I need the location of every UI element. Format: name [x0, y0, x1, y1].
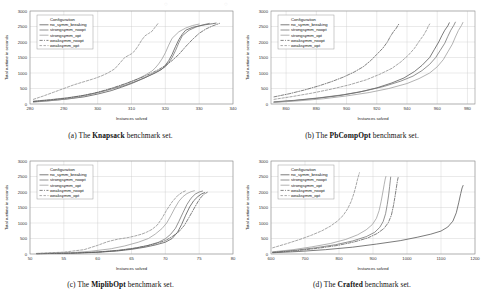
caption-d-prefix: (d) The: [313, 280, 337, 289]
panel-a: 0500100015002000250030002802903003103203…: [0, 0, 241, 150]
svg-text:310: 310: [128, 106, 136, 111]
y-axis-label: Total runtime in seconds: [4, 185, 9, 230]
svg-text:880: 880: [313, 106, 321, 111]
svg-text:320: 320: [162, 106, 170, 111]
legend-title: Configuration: [291, 167, 317, 172]
svg-text:920: 920: [373, 106, 381, 111]
caption-b: (b) The PbCompOpt benchmark set.: [241, 131, 483, 140]
panel-b: 0500100015002000250030008608809009209409…: [241, 0, 483, 150]
caption-d: (d) The Crafted benchmark set.: [241, 280, 483, 289]
svg-text:0: 0: [266, 102, 269, 107]
svg-text:1500: 1500: [259, 205, 269, 210]
legend-item-label: weaksymm_opt: [50, 43, 80, 48]
plot-d: 0500100015002000250030006007008009001000…: [241, 156, 483, 272]
svg-text:500: 500: [20, 236, 28, 241]
svg-text:2000: 2000: [18, 190, 28, 195]
svg-text:50: 50: [28, 256, 33, 261]
svg-text:65: 65: [129, 256, 134, 261]
y-axis-label: Total runtime in seconds: [245, 185, 250, 230]
svg-text:700: 700: [302, 256, 310, 261]
svg-text:1100: 1100: [436, 256, 446, 261]
panel-c: 05001000150020002500300050556065707580In…: [0, 150, 241, 301]
plot-c: 05001000150020002500300050556065707580In…: [0, 156, 241, 272]
chart-b: 0500100015002000250030008608809009209409…: [241, 6, 483, 122]
legend-item-label: weaksymm_opt: [50, 193, 80, 198]
svg-text:2500: 2500: [18, 24, 28, 29]
caption-b-prefix: (b) The: [305, 131, 329, 140]
svg-text:60: 60: [95, 256, 100, 261]
svg-text:300: 300: [94, 106, 102, 111]
figure-grid: 0500100015002000250030002802903003103203…: [0, 0, 483, 301]
svg-text:340: 340: [230, 106, 238, 111]
y-axis-label: Total runtime in seconds: [245, 35, 250, 80]
caption-a-suffix: benchmark set.: [125, 131, 173, 140]
legend-title: Configuration: [291, 17, 317, 22]
caption-a-bold: Knapsack: [92, 131, 124, 140]
x-axis-label: Instances solved: [116, 266, 148, 271]
x-axis-label: Instances solved: [357, 116, 389, 121]
caption-c: (c) The MiplibOpt benchmark set.: [0, 280, 241, 289]
svg-text:900: 900: [370, 256, 378, 261]
x-axis-label: Instances solved: [116, 116, 148, 121]
svg-text:1500: 1500: [18, 205, 28, 210]
svg-text:1000: 1000: [259, 221, 269, 226]
svg-text:600: 600: [268, 256, 276, 261]
legend: Configurationno_symm_breakingstrongsymm_…: [278, 165, 334, 199]
series-line: [37, 191, 186, 254]
svg-text:1000: 1000: [18, 221, 28, 226]
svg-text:2000: 2000: [259, 40, 269, 45]
svg-text:1500: 1500: [259, 55, 269, 60]
x-axis-label: Instances solved: [357, 266, 389, 271]
legend-title: Configuration: [50, 17, 76, 22]
y-axis-label: Total runtime in seconds: [4, 35, 9, 80]
svg-text:860: 860: [283, 106, 291, 111]
svg-text:500: 500: [20, 86, 28, 91]
svg-text:3000: 3000: [18, 9, 28, 14]
caption-c-bold: MiplibOpt: [91, 280, 126, 289]
chart-d: 0500100015002000250030006007008009001000…: [241, 156, 483, 272]
svg-text:80: 80: [231, 256, 236, 261]
caption-a: (a) The Knapsack benchmark set.: [0, 131, 241, 140]
svg-text:3000: 3000: [18, 159, 28, 164]
legend-item-label: weaksymm_opt: [291, 193, 321, 198]
svg-text:1500: 1500: [18, 55, 28, 60]
legend: Configurationno_symm_breakingstrongsymm_…: [278, 15, 334, 49]
legend: Configurationno_symm_breakingstrongsymm_…: [37, 15, 93, 49]
chart-c: 05001000150020002500300050556065707580In…: [0, 156, 241, 272]
legend-item-label: weaksymm_opt: [291, 43, 321, 48]
svg-text:980: 980: [464, 106, 472, 111]
svg-text:330: 330: [196, 106, 204, 111]
svg-text:1000: 1000: [18, 71, 28, 76]
caption-b-bold: PbCompOpt: [330, 131, 371, 140]
caption-c-prefix: (c) The: [67, 280, 91, 289]
legend-title: Configuration: [50, 167, 76, 172]
svg-text:1000: 1000: [259, 71, 269, 76]
plot-a: 0500100015002000250030002802903003103203…: [0, 6, 241, 122]
legend: Configurationno_symm_breakingstrongsymm_…: [37, 165, 93, 199]
svg-text:900: 900: [343, 106, 351, 111]
svg-text:1000: 1000: [402, 256, 412, 261]
svg-text:2500: 2500: [18, 174, 28, 179]
svg-text:960: 960: [434, 106, 442, 111]
svg-text:55: 55: [61, 256, 66, 261]
svg-text:500: 500: [261, 236, 269, 241]
svg-text:500: 500: [261, 86, 269, 91]
svg-text:2000: 2000: [18, 40, 28, 45]
svg-text:290: 290: [60, 106, 68, 111]
caption-b-suffix: benchmark set.: [371, 131, 419, 140]
caption-a-prefix: (a) The: [68, 131, 92, 140]
caption-c-suffix: benchmark set.: [126, 280, 174, 289]
caption-d-bold: Crafted: [338, 280, 363, 289]
panel-d: 0500100015002000250030006007008009001000…: [241, 150, 483, 301]
svg-text:800: 800: [336, 256, 344, 261]
svg-text:75: 75: [197, 256, 202, 261]
caption-d-suffix: benchmark set.: [363, 280, 411, 289]
svg-text:2000: 2000: [259, 190, 269, 195]
svg-text:2500: 2500: [259, 174, 269, 179]
svg-text:70: 70: [163, 256, 168, 261]
svg-text:1200: 1200: [470, 256, 480, 261]
svg-text:940: 940: [404, 106, 412, 111]
svg-text:3000: 3000: [259, 9, 269, 14]
svg-text:280: 280: [27, 106, 35, 111]
svg-text:2500: 2500: [259, 24, 269, 29]
